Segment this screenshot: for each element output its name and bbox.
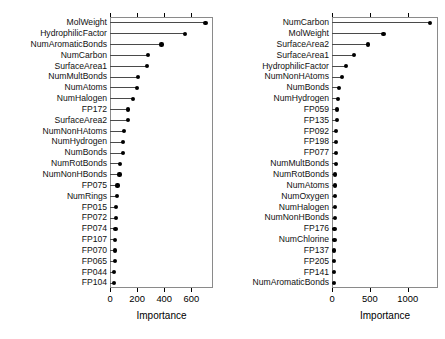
data-point-dot bbox=[334, 162, 338, 166]
left-plot-frame bbox=[110, 17, 213, 288]
category-label: NumAromaticBonds bbox=[253, 277, 329, 287]
category-label: SurfaceArea1 bbox=[54, 61, 107, 71]
x-tick-label: 600 bbox=[166, 294, 216, 304]
category-label: NumChlorine bbox=[279, 234, 329, 244]
data-point-dot bbox=[183, 32, 187, 36]
x-tick-mark-top bbox=[370, 13, 371, 17]
figure-two-panel-variable-importance: MolWeightHydrophilicFactorNumAromaticBon… bbox=[0, 0, 445, 339]
data-point-dot bbox=[344, 64, 348, 68]
category-label: FP135 bbox=[304, 115, 329, 125]
data-point-dot bbox=[118, 162, 122, 166]
x-tick-mark bbox=[191, 288, 192, 292]
category-label: FP065 bbox=[82, 256, 107, 266]
category-label: FP137 bbox=[304, 245, 329, 255]
x-tick-mark bbox=[332, 288, 333, 292]
data-point-dot bbox=[336, 97, 340, 101]
category-label: NumAromaticBonds bbox=[31, 39, 107, 49]
panel-right-importance-chart: NumCarbonMolWeightSurfaceArea2SurfaceAre… bbox=[222, 0, 445, 339]
right-x-axis-title: Importance bbox=[332, 310, 438, 322]
category-label: NumBonds bbox=[64, 147, 107, 157]
data-point-dot bbox=[333, 216, 337, 220]
category-label: FP198 bbox=[304, 136, 329, 146]
category-label: MolWeight bbox=[289, 28, 329, 38]
value-connector-line bbox=[110, 98, 133, 99]
data-point-dot bbox=[332, 248, 336, 252]
left-x-axis-title: Importance bbox=[110, 310, 213, 322]
category-label: SurfaceArea2 bbox=[54, 115, 107, 125]
value-connector-line bbox=[110, 44, 162, 45]
x-tick-label: 1000 bbox=[383, 294, 433, 304]
category-label: HydrophilicFactor bbox=[262, 61, 329, 71]
category-label: NumBonds bbox=[286, 82, 329, 92]
x-tick-mark bbox=[137, 288, 138, 292]
category-label: FP015 bbox=[82, 202, 107, 212]
category-label: SurfaceArea2 bbox=[276, 39, 329, 49]
value-connector-line bbox=[110, 66, 147, 67]
panel-left-importance-chart: MolWeightHydrophilicFactorNumAromaticBon… bbox=[0, 0, 222, 339]
category-label: FP074 bbox=[82, 223, 107, 233]
data-point-dot bbox=[113, 227, 117, 231]
category-label: NumCarbon bbox=[283, 17, 329, 27]
data-point-dot bbox=[117, 172, 121, 176]
category-label: FP141 bbox=[304, 267, 329, 277]
x-tick-mark-top bbox=[332, 13, 333, 17]
category-label: NumAtoms bbox=[287, 180, 330, 190]
data-point-dot bbox=[332, 281, 336, 285]
category-label: FP176 bbox=[304, 223, 329, 233]
data-point-dot bbox=[381, 32, 385, 36]
data-point-dot bbox=[337, 86, 341, 90]
category-label: NumRotBonds bbox=[273, 169, 329, 179]
category-label: NumNonHAtoms bbox=[265, 71, 329, 81]
x-tick-mark-top bbox=[110, 13, 111, 17]
category-label: NumMultBonds bbox=[270, 158, 329, 168]
category-label: NumNonHBonds bbox=[265, 212, 329, 222]
x-tick-mark bbox=[370, 288, 371, 292]
data-point-dot bbox=[126, 107, 130, 111]
value-connector-line bbox=[110, 22, 206, 23]
data-point-dot bbox=[121, 151, 125, 155]
data-point-dot bbox=[159, 42, 163, 46]
category-label: FP172 bbox=[82, 104, 107, 114]
category-label: FP059 bbox=[304, 104, 329, 114]
category-label: SurfaceArea1 bbox=[276, 50, 329, 60]
category-label: HydrophilicFactor bbox=[40, 28, 107, 38]
category-label: FP092 bbox=[304, 126, 329, 136]
data-point-dot bbox=[332, 227, 336, 231]
value-connector-line bbox=[332, 33, 383, 34]
x-tick-mark-top bbox=[191, 13, 192, 17]
category-label: FP104 bbox=[82, 277, 107, 287]
category-label: NumHalogen bbox=[279, 202, 329, 212]
category-label: NumNonHAtoms bbox=[43, 126, 107, 136]
data-point-dot bbox=[334, 151, 338, 155]
value-connector-line bbox=[110, 77, 138, 78]
data-point-dot bbox=[203, 21, 207, 25]
data-point-dot bbox=[332, 238, 336, 242]
category-label: NumMultBonds bbox=[48, 71, 107, 81]
category-label: NumHydrogen bbox=[274, 93, 329, 103]
x-tick-mark-top bbox=[408, 13, 409, 17]
data-point-dot bbox=[135, 86, 139, 90]
x-tick-mark bbox=[408, 288, 409, 292]
value-connector-line bbox=[110, 33, 185, 34]
right-plot-frame bbox=[332, 17, 438, 288]
value-connector-line bbox=[110, 87, 137, 88]
data-point-dot bbox=[333, 183, 337, 187]
x-tick-mark-top bbox=[137, 13, 138, 17]
category-label: FP077 bbox=[304, 147, 329, 157]
category-label: FP205 bbox=[304, 256, 329, 266]
data-point-dot bbox=[113, 238, 117, 242]
category-label: MolWeight bbox=[67, 17, 107, 27]
x-tick-mark-top bbox=[164, 13, 165, 17]
data-point-dot bbox=[114, 216, 118, 220]
category-label: NumHydrogen bbox=[52, 136, 107, 146]
x-tick-mark bbox=[164, 288, 165, 292]
data-point-dot bbox=[335, 107, 339, 111]
category-label: FP070 bbox=[82, 245, 107, 255]
value-connector-line bbox=[110, 120, 128, 121]
category-label: NumOxygen bbox=[281, 191, 329, 201]
data-point-dot bbox=[136, 75, 140, 79]
value-connector-line bbox=[332, 44, 368, 45]
category-label: FP072 bbox=[82, 212, 107, 222]
category-label: FP044 bbox=[82, 267, 107, 277]
category-label: NumHalogen bbox=[57, 93, 107, 103]
